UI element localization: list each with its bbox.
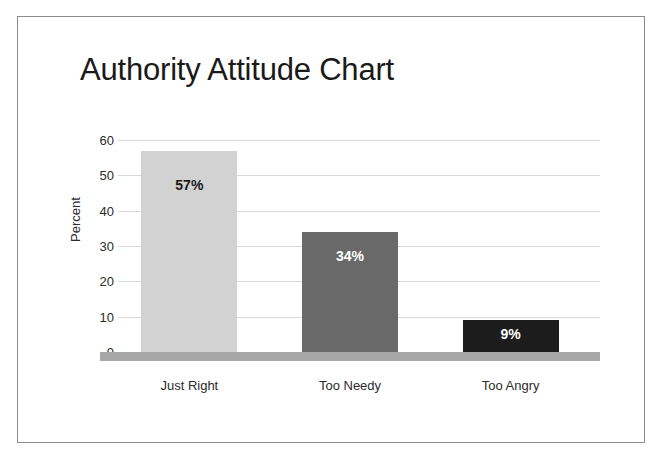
y-axis-tick-labels: 0102030405060 xyxy=(86,140,114,352)
x-axis-category-labels: Just RightToo NeedyToo Angry xyxy=(118,378,600,398)
x-axis-category-label: Too Needy xyxy=(302,378,398,393)
bar: 57% xyxy=(141,151,237,352)
x-axis-category-label: Just Right xyxy=(141,378,237,393)
bar: 34% xyxy=(302,232,398,352)
x-axis-category-label: Too Angry xyxy=(463,378,559,393)
y-axis-tick-label: 40 xyxy=(100,203,114,218)
bar-value-label: 9% xyxy=(463,326,559,342)
y-axis-tick-label: 20 xyxy=(100,274,114,289)
y-axis-title: Percent xyxy=(68,180,83,260)
axis-baseline xyxy=(100,352,600,361)
y-axis-tick-label: 10 xyxy=(100,309,114,324)
y-axis-tick-label: 60 xyxy=(100,133,114,148)
bar-value-label: 57% xyxy=(141,177,237,193)
bar-series: 57%34%9% xyxy=(118,140,600,352)
bar-value-label: 34% xyxy=(302,248,398,264)
y-axis-tick-label: 50 xyxy=(100,168,114,183)
y-axis-tick-label: 30 xyxy=(100,239,114,254)
page-title: Authority Attitude Chart xyxy=(80,52,394,88)
bar: 9% xyxy=(463,320,559,352)
chart-screenshot: Authority Attitude Chart Percent 0102030… xyxy=(0,0,662,459)
